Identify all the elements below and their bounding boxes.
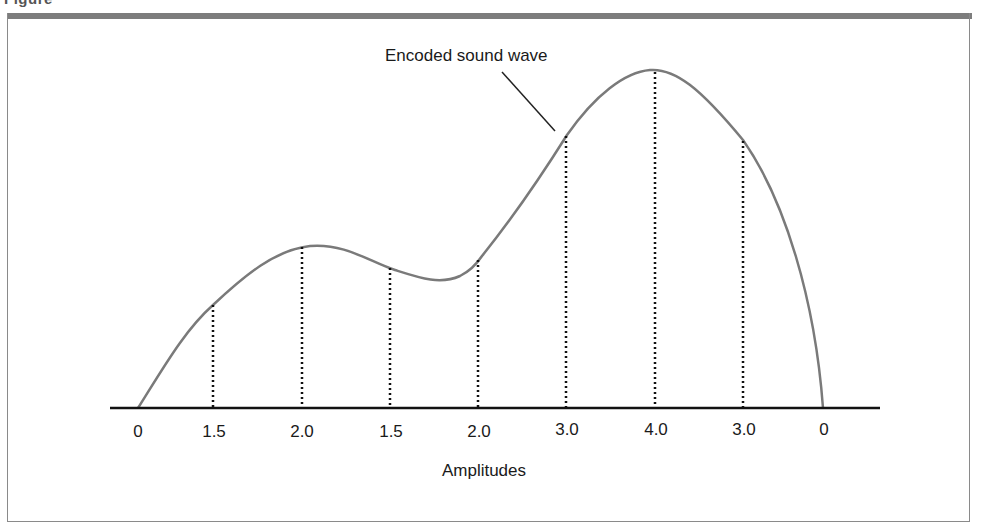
axis-title: Amplitudes [442,461,526,480]
tick-label: 2.0 [467,422,491,441]
tick-labels: 0 1.5 2.0 1.5 2.0 3.0 4.0 3.0 0 [133,420,828,441]
tick-label: 0 [819,420,828,439]
sample-lines [213,72,743,408]
callout-label: Encoded sound wave [385,46,548,65]
tick-label: 0 [133,422,142,441]
tick-label: 3.0 [555,420,579,439]
sound-wave-diagram: Encoded sound wave 0 1.5 2.0 1.5 2.0 3.0… [0,0,995,532]
tick-label: 3.0 [732,420,756,439]
tick-label: 4.0 [644,420,668,439]
callout-leader-line [502,72,555,131]
tick-label: 1.5 [202,422,226,441]
sound-wave-curve [138,70,823,408]
tick-label: 2.0 [290,422,314,441]
tick-label: 1.5 [379,422,403,441]
